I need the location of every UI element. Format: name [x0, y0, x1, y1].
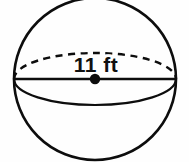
center-point-dot — [90, 74, 100, 84]
diameter-label: 11 ft — [74, 53, 119, 76]
sphere-diagram-canvas: 11 ft 11 ft — [0, 0, 189, 162]
sphere-diagram-figure: 11 ft 11 ft — [0, 0, 189, 162]
